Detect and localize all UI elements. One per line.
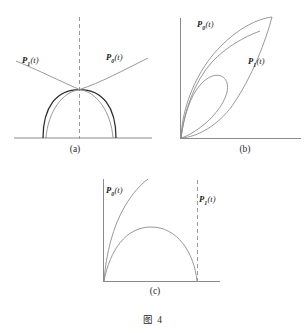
panel-c-p0-arg: (t) (114, 185, 122, 195)
thin-arc-right (80, 90, 114, 139)
panel-c-p0-label: P0(t) (106, 185, 123, 197)
panel-b-p0-label: P0(t) (197, 19, 214, 31)
panel-c-p1-label: P1(t) (199, 194, 216, 206)
dome-arch (104, 227, 197, 281)
outer-petal-lower (181, 17, 272, 138)
figure-caption: 图 4 (0, 312, 306, 326)
panel-b-p1-arg: (t) (256, 56, 264, 66)
figure-container: P1(t) P0(t) (a) P0(t) (0, 0, 306, 333)
panel-a-plot (0, 0, 160, 160)
panel-b-caption: (b) (225, 144, 265, 154)
outer-petal-upper (181, 17, 272, 138)
panel-a-p1-arg: (t) (30, 55, 38, 65)
panel-b-plot (160, 0, 306, 160)
panel-a-p0-arg: (t) (114, 52, 122, 62)
panel-b: P0(t) P1(t) (b) (160, 0, 306, 160)
panel-c-caption: (c) (135, 286, 175, 296)
panel-a: P1(t) P0(t) (a) (0, 0, 160, 160)
panel-c-p1-arg: (t) (207, 194, 215, 204)
panel-c: P0(t) P1(t) (c) (80, 170, 240, 312)
inner-small-loop (181, 75, 228, 138)
panel-a-caption: (a) (55, 144, 95, 154)
thin-arc-left (46, 90, 80, 139)
panel-b-p1-label: P1(t) (248, 56, 265, 68)
panel-b-p0-arg: (t) (205, 19, 213, 29)
panel-a-p1-label: P1(t) (22, 55, 39, 67)
panel-a-p0-label: P0(t) (106, 52, 123, 64)
